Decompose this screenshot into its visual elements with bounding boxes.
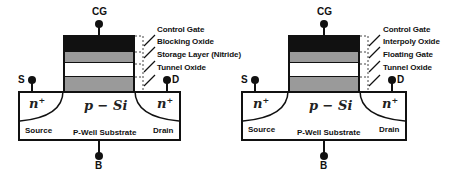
source-terminal-label: S <box>18 74 25 85</box>
layer-label-control-gate: Control Gate <box>157 25 204 34</box>
floating-gate-flash-diagram: CG Control Gate Interpoly Oxide Floating… <box>225 0 451 178</box>
tunnel-oxide-layer <box>63 77 135 92</box>
source-region-label: Source <box>248 125 275 134</box>
drain-terminal-label: D <box>397 74 404 85</box>
drain-region-label: Drain <box>153 126 173 135</box>
drain-region-label: Drain <box>379 125 399 134</box>
source-doping: n+ <box>253 95 269 111</box>
charge-trap-flash-diagram: CG Control Gate Blocking Oxide Storage L… <box>0 0 226 178</box>
body-contact-dot <box>95 152 103 160</box>
source-terminal-label: S <box>241 74 248 85</box>
layer-callout-lines <box>135 34 159 94</box>
control-gate-layer <box>63 35 135 53</box>
source-region-label: Source <box>25 126 52 135</box>
drain-doping: n+ <box>157 95 173 111</box>
source-doping: n+ <box>29 95 45 111</box>
storage-layer <box>63 63 135 78</box>
body-contact-dot <box>320 152 328 160</box>
layer-callout-lines <box>360 34 384 94</box>
channel-label: p − Si <box>309 98 352 113</box>
layer-label-floating-gate: Floating Gate <box>383 50 433 59</box>
layer-label-blocking-oxide: Blocking Oxide <box>157 37 214 46</box>
drain-doping: n+ <box>382 95 398 111</box>
layer-label-interpoly-oxide: Interpoly Oxide <box>383 37 440 46</box>
floating-gate-layer <box>288 63 360 78</box>
control-gate-layer <box>288 35 360 53</box>
substrate-label: P-Well Substrate <box>297 128 360 137</box>
substrate-label: P-Well Substrate <box>73 128 136 137</box>
body-terminal-label: B <box>320 160 327 171</box>
layer-label-tunnel-oxide: Tunnel Oxide <box>383 63 432 72</box>
channel-label: p − Si <box>84 98 127 113</box>
layer-label-tunnel-oxide: Tunnel Oxide <box>157 63 206 72</box>
layer-label-control-gate: Control Gate <box>383 25 430 34</box>
body-terminal-label: B <box>95 160 102 171</box>
gate-terminal-label: CG <box>92 6 107 17</box>
tunnel-oxide-layer <box>288 77 360 92</box>
gate-terminal-label: CG <box>317 6 332 17</box>
drain-terminal-label: D <box>172 74 179 85</box>
